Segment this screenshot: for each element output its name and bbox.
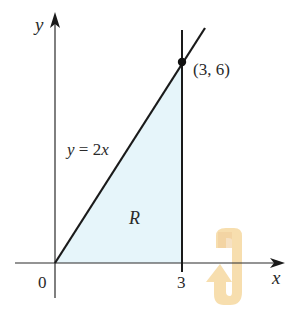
region-label: R	[128, 208, 140, 228]
point-3-6	[178, 58, 186, 66]
x-axis-label: x	[271, 267, 281, 288]
region-diagram: y x 0 3 (3, 6) y = 2x R	[0, 0, 300, 320]
x-tick-label-3: 3	[177, 273, 186, 292]
y-axis-label: y	[33, 14, 44, 35]
origin-label: 0	[38, 273, 47, 292]
point-label: (3, 6)	[193, 60, 230, 79]
curve-label: y = 2x	[65, 140, 109, 159]
curve-label-rhs: x	[100, 140, 109, 159]
rotation-arrow-icon	[206, 228, 242, 305]
curve-label-lhs: y	[65, 140, 75, 159]
curve-label-eq: = 2	[75, 140, 102, 159]
